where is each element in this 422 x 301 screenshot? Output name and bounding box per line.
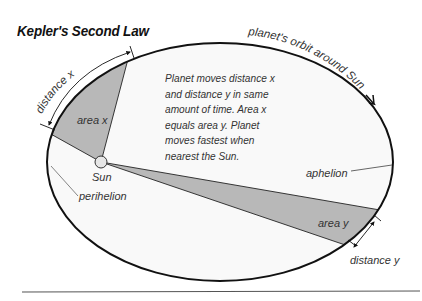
sun-icon [95,156,107,168]
area-y-label: area y [318,217,350,229]
kepler-diagram: Kepler's Second Law [0,0,422,301]
aphelion-label: aphelion [306,167,348,179]
distance-y-label: distance y [350,254,401,266]
description-line: equals area y. Planet [165,118,288,134]
bottom-rule [22,291,420,292]
description-text: Planet moves distance x and distance y i… [165,71,288,165]
description-line: amount of time. Area x [165,102,288,118]
perihelion-label: perihelion [78,190,127,202]
description-line: moves fastest when [165,133,288,149]
area-x-label: area x [77,114,108,126]
description-line: Planet moves distance x [165,71,288,87]
description-line: and distance y in same [165,87,288,103]
description-line: nearest the Sun. [165,149,288,165]
sun-label: Sun [92,171,112,183]
